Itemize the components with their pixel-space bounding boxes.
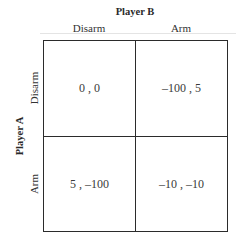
- column-player-label: Player B: [116, 6, 155, 17]
- payoff-cell-arm-disarm: 5 , –100: [44, 137, 136, 231]
- payoff-cell-arm-arm: –10 , –10: [136, 137, 227, 231]
- row-player-label: Player A: [14, 117, 25, 156]
- payoff-cell-disarm-disarm: 0 , 0: [44, 41, 136, 137]
- row-label-disarm: Disarm: [28, 72, 40, 104]
- divider: [40, 33, 236, 34]
- payoff-cell-disarm-arm: –100 , 5: [136, 41, 227, 137]
- row-label-arm: Arm: [28, 174, 40, 194]
- payoff-matrix: 0 , 0 –100 , 5 5 , –100 –10 , –10: [43, 40, 228, 232]
